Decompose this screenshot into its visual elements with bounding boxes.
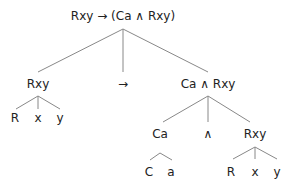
tree-edge — [123, 29, 208, 72]
tree-node-l2-y: y — [56, 112, 63, 124]
tree-edge — [160, 153, 172, 160]
tree-root-node: Rxy → (Ca ∧ Rxy) — [71, 10, 175, 22]
tree-node-l2-R: R — [11, 112, 19, 124]
tree-node-l3-y: y — [273, 166, 280, 178]
tree-node-l2-Rxy: Rxy — [244, 128, 267, 140]
tree-edges — [0, 0, 290, 191]
tree-node-l2-x: x — [34, 112, 41, 124]
tree-node-l2-and: ∧ — [204, 128, 213, 140]
tree-node-l3-R: R — [227, 166, 235, 178]
tree-edge — [233, 147, 255, 159]
tree-edge — [16, 96, 38, 109]
tree-node-l1-rxy: Rxy — [27, 78, 50, 90]
tree-edge — [208, 96, 250, 122]
tree-node-l3-C: C — [145, 166, 153, 178]
tree-edge — [255, 147, 277, 159]
tree-node-l1-arrow: → — [118, 78, 128, 90]
tree-edge — [38, 29, 123, 72]
tree-node-l2-Ca: Ca — [152, 128, 168, 140]
tree-edge — [38, 96, 60, 109]
tree-node-l3-a: a — [167, 166, 174, 178]
tree-edge — [163, 96, 208, 122]
tree-node-l1-conj: Ca ∧ Rxy — [181, 78, 236, 90]
tree-edge — [150, 153, 160, 160]
tree-node-l3-x: x — [251, 166, 258, 178]
